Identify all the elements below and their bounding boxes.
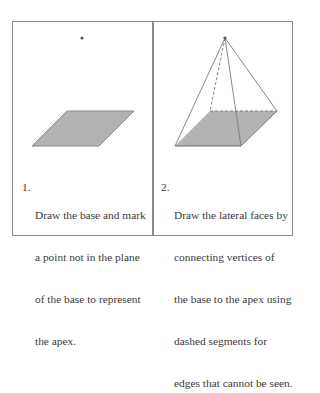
step-text: Draw the lateral faces by connecting ver… — [174, 180, 293, 393]
panel-1-figure — [32, 36, 134, 146]
caption-line: the apex. — [35, 334, 146, 348]
step-number: 1. — [22, 180, 31, 194]
caption-line: Draw the lateral faces by — [174, 208, 293, 222]
base-parallelogram — [175, 111, 277, 146]
lateral-edge — [225, 38, 277, 111]
apex-point — [80, 36, 83, 39]
step-text: Draw the base and mark a point not in th… — [35, 180, 146, 376]
step-number: 2. — [161, 180, 170, 194]
caption-line: the base to the apex using — [174, 292, 293, 306]
hidden-lateral-edge — [210, 38, 225, 111]
caption-line: edges that cannot be seen. — [174, 376, 293, 390]
panel-2-figure — [175, 36, 277, 146]
caption-line: a point not in the plane — [35, 250, 146, 264]
caption-line: Draw the base and mark — [35, 208, 146, 222]
apex-point — [223, 36, 226, 39]
caption-line: of the base to represent — [35, 292, 146, 306]
caption-line: connecting vertices of — [174, 250, 293, 264]
base-parallelogram — [32, 111, 134, 146]
caption-line: dashed segments for — [174, 334, 293, 348]
